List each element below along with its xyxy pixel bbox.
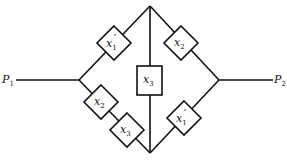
bridge-network-diagram: x1′ x2 x3 x2 x3 x1′ P1 P2 [0, 0, 287, 162]
component-top-right: x2 [164, 26, 198, 60]
component-center: x3 [137, 66, 162, 95]
terminal-p1: P1 [1, 73, 14, 88]
terminal-p2: P2 [273, 73, 286, 88]
diagram-svg: x1′ x2 x3 x2 x3 x1′ P1 P2 [0, 0, 287, 162]
